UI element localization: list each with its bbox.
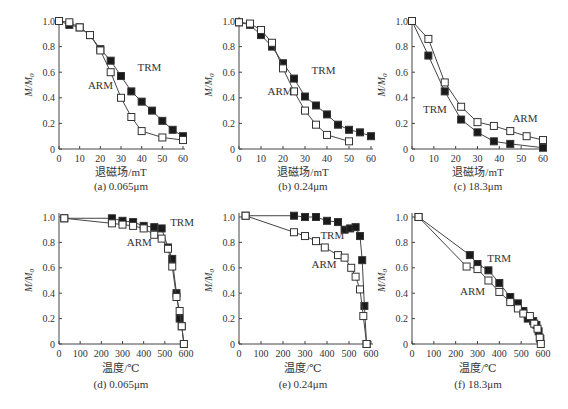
series-label-arm: ARM xyxy=(268,85,293,97)
x-tick-label: 500 xyxy=(342,348,357,359)
y-tick-label: 0.2 xyxy=(396,118,409,129)
y-tick-label: 0.2 xyxy=(396,313,409,324)
open-square-marker xyxy=(324,131,331,138)
filled-square-marker xyxy=(466,252,473,259)
caption-c: (c) 18.3μm xyxy=(388,180,568,192)
open-square-marker xyxy=(176,307,183,314)
filled-square-marker xyxy=(357,233,364,240)
x-tick-label: 400 xyxy=(320,348,335,359)
open-square-marker xyxy=(490,122,497,129)
xlabel-c: 退磁场/mT xyxy=(388,163,568,179)
y-tick-label: 0.2 xyxy=(223,313,236,324)
series-label-trm: TRM xyxy=(170,216,194,228)
filled-square-marker xyxy=(324,111,331,118)
open-square-marker xyxy=(302,233,309,240)
open-square-marker xyxy=(280,65,287,72)
open-square-marker xyxy=(130,222,137,229)
x-tick-label: 600 xyxy=(536,348,551,359)
y-tick-label: 0.6 xyxy=(396,67,409,78)
filled-square-marker xyxy=(176,315,183,322)
open-square-marker xyxy=(107,69,114,76)
series-line-arm xyxy=(64,218,184,344)
series-label-trm: TRM xyxy=(138,61,162,73)
series-label-trm: TRM xyxy=(312,64,336,76)
open-square-marker xyxy=(352,273,359,280)
filled-square-marker xyxy=(335,121,342,128)
x-tick-label: 600 xyxy=(179,348,194,359)
filled-square-marker xyxy=(458,116,465,123)
filled-square-marker xyxy=(169,126,176,133)
y-tick-label: 0.6 xyxy=(396,262,409,273)
open-square-marker xyxy=(247,20,254,27)
open-square-marker xyxy=(520,310,527,317)
open-square-marker xyxy=(173,294,180,301)
filled-square-marker xyxy=(128,88,135,95)
filled-square-marker xyxy=(158,225,165,232)
y-tick-label: 1.0 xyxy=(396,212,409,223)
filled-square-marker xyxy=(138,98,145,105)
filled-square-marker xyxy=(107,57,114,64)
open-square-marker xyxy=(165,245,172,252)
x-tick-label: 200 xyxy=(448,348,463,359)
x-tick-label: 0 xyxy=(57,348,62,359)
caption-b: (b) 0.24μm xyxy=(213,180,393,192)
open-square-marker xyxy=(236,19,243,26)
open-square-marker xyxy=(346,138,353,145)
open-square-marker xyxy=(474,119,481,126)
series-label-arm: ARM xyxy=(127,236,152,248)
open-square-marker xyxy=(474,266,481,273)
y-tick-label: 0.8 xyxy=(43,237,56,248)
series-label-arm: ARM xyxy=(460,285,485,297)
x-tick-label: 400 xyxy=(492,348,507,359)
y-tick-label: 0.8 xyxy=(223,41,236,52)
xlabel-d: 温度/℃ xyxy=(31,359,211,375)
open-square-marker xyxy=(108,220,115,227)
y-tick-label: 0.6 xyxy=(223,262,236,273)
open-square-marker xyxy=(463,263,470,270)
series-label-arm: ARM xyxy=(312,258,337,270)
open-square-marker xyxy=(138,128,145,135)
chart-grid: 00.20.40.60.81.00102030405060M/M0TRMARM0… xyxy=(0,0,568,409)
filled-square-marker xyxy=(357,129,364,136)
series-line-trm xyxy=(64,218,184,344)
filled-square-marker xyxy=(151,224,158,231)
x-tick-label: 200 xyxy=(94,348,109,359)
open-square-marker xyxy=(523,133,530,140)
filled-square-marker xyxy=(540,144,547,151)
y-tick-label: 0.4 xyxy=(43,288,56,299)
y-tick-label: 0 xyxy=(403,339,408,350)
y-tick-label: 0 xyxy=(50,144,55,155)
open-square-marker xyxy=(178,323,185,330)
y-tick-label: 0.4 xyxy=(43,92,56,103)
y-tick-label: 0.6 xyxy=(43,67,56,78)
open-square-marker xyxy=(180,137,187,144)
series-line-arm xyxy=(419,217,541,344)
series-label-trm: TRM xyxy=(423,103,447,115)
x-tick-label: 200 xyxy=(276,348,291,359)
y-tick-label: 0.6 xyxy=(43,262,56,273)
x-tick-label: 100 xyxy=(254,348,269,359)
y-tick-label: 0 xyxy=(403,144,408,155)
filled-square-marker xyxy=(118,73,125,80)
y-tick-label: 1.0 xyxy=(43,212,56,223)
series-line-trm xyxy=(239,22,371,136)
chart-panel-d: 00.20.40.60.81.00100200300400500600M/M0T… xyxy=(23,212,194,360)
filled-square-marker xyxy=(159,117,166,124)
open-square-marker xyxy=(507,128,514,135)
open-square-marker xyxy=(458,103,465,110)
y-axis-label: M/M0 xyxy=(203,269,216,293)
open-square-marker xyxy=(313,121,320,128)
x-tick-label: 100 xyxy=(73,348,88,359)
y-tick-label: 0.8 xyxy=(43,41,56,52)
y-tick-label: 0.6 xyxy=(223,67,236,78)
open-square-marker xyxy=(151,231,158,238)
x-tick-label: 600 xyxy=(364,348,379,359)
y-tick-label: 1.0 xyxy=(223,212,236,223)
open-square-marker xyxy=(291,229,298,236)
y-tick-label: 0.8 xyxy=(396,41,409,52)
y-axis-label: M/M0 xyxy=(376,73,389,97)
x-tick-label: 400 xyxy=(136,348,151,359)
caption-d: (d) 0.065μm xyxy=(31,378,211,390)
open-square-marker xyxy=(159,134,166,141)
x-tick-label: 300 xyxy=(298,348,313,359)
